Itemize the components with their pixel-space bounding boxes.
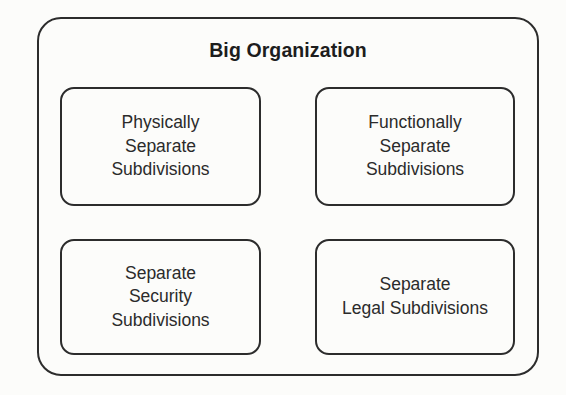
subdivision-grid: Physically Separate Subdivisions Functio… (60, 87, 515, 355)
diagram-canvas: Big Organization Physically Separate Sub… (0, 0, 566, 395)
box-separate-security-subdivisions: Separate Security Subdivisions (60, 239, 261, 355)
box-separate-legal-subdivisions: Separate Legal Subdivisions (315, 239, 515, 355)
box-label-separate-legal-subdivisions: Separate Legal Subdivisions (334, 273, 496, 320)
box-label-separate-security-subdivisions: Separate Security Subdivisions (103, 262, 217, 333)
box-functionally-separate-subdivisions: Functionally Separate Subdivisions (315, 87, 515, 206)
big-organization-container: Big Organization Physically Separate Sub… (37, 17, 539, 376)
big-organization-title: Big Organization (39, 40, 537, 61)
box-physically-separate-subdivisions: Physically Separate Subdivisions (60, 87, 261, 206)
box-label-functionally-separate-subdivisions: Functionally Separate Subdivisions (358, 111, 472, 182)
box-label-physically-separate-subdivisions: Physically Separate Subdivisions (103, 111, 217, 182)
